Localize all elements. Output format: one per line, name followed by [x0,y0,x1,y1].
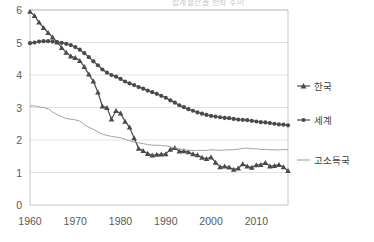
legend-label-0: 한국 [314,81,332,92]
chart-canvas: 0123456196019701980199020002010한국세계고소득국 [0,0,374,242]
legend-item-0[interactable]: 한국 [297,81,332,92]
y-tick-label: 4 [16,69,22,81]
fertility-rate-chart: 합계출산율 변화 추이 0123456196019701980199020002… [0,0,374,242]
chart-title: 합계출산율 변화 추이 [118,0,298,6]
y-tick-label: 2 [16,134,22,146]
y-tick-label: 3 [16,102,22,114]
y-tick-label: 0 [16,199,22,211]
y-tick-label: 5 [16,37,22,49]
legend-label-2: 고소득국 [314,155,350,166]
series-line-2 [30,106,288,151]
x-tick-label: 1970 [64,215,88,227]
legend-item-2[interactable]: 고소득국 [297,155,350,166]
x-tick-label: 1960 [18,215,42,227]
x-tick-label: 1980 [109,215,133,227]
x-tick-label: 1990 [154,215,178,227]
y-tick-label: 6 [16,4,22,16]
legend-label-1: 세계 [314,115,332,126]
x-tick-label: 2010 [245,215,269,227]
x-tick-label: 2000 [199,215,223,227]
series-line-0 [30,12,288,171]
legend-item-1[interactable]: 세계 [297,115,332,126]
y-tick-label: 1 [16,167,22,179]
